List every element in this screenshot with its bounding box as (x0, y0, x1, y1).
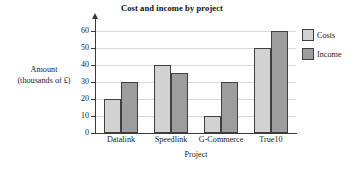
gridline (96, 31, 296, 32)
y-tick: 60 (0, 27, 89, 35)
legend-swatch-costs (302, 29, 314, 41)
x-axis-title: Project (96, 150, 296, 159)
bar-costs-speedlink (154, 65, 171, 133)
y-tick: 0 (0, 129, 89, 137)
bar-income-g-commerce (221, 82, 238, 133)
y-tick: 20 (0, 95, 89, 103)
x-axis-line (95, 133, 297, 134)
legend-label-income: Income (317, 50, 342, 59)
y-axis-title: Amount (thousands of £) (0, 64, 88, 86)
y-axis-title-line2: (thousands of £) (0, 75, 88, 86)
bar-chart-figure: Cost and income by project 0102030405060… (0, 0, 356, 170)
legend-item-costs[interactable]: Costs (302, 25, 342, 39)
bar-income-speedlink (171, 73, 188, 133)
bar-costs-datalink (104, 99, 121, 133)
bar-costs-g-commerce (204, 116, 221, 133)
y-tick: 10 (0, 112, 89, 120)
y-tick-label: 50 (67, 44, 89, 52)
chart-legend: CostsIncome (302, 25, 342, 63)
category-label-true10: True10 (231, 135, 311, 145)
y-axis-arrow-icon (92, 13, 98, 19)
y-tick: 50 (0, 44, 89, 52)
bar-income-true10 (271, 31, 288, 134)
plot-area (96, 22, 296, 133)
legend-label-costs: Costs (317, 31, 335, 40)
y-tick-label: 20 (67, 95, 89, 103)
bar-costs-true10 (254, 48, 271, 133)
legend-item-income[interactable]: Income (302, 44, 342, 58)
y-axis-title-line1: Amount (31, 65, 58, 74)
bar-income-datalink (121, 82, 138, 133)
chart-title: Cost and income by project (0, 3, 356, 13)
legend-swatch-income (302, 48, 314, 60)
y-tick-label: 10 (67, 112, 89, 120)
y-tick-label: 60 (67, 27, 89, 35)
